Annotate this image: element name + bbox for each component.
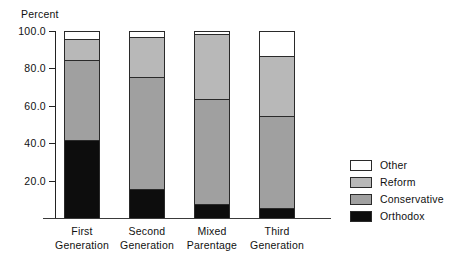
y-tick-label-wrap: 80.0 <box>0 62 46 74</box>
bar-segment-conservative <box>260 117 294 209</box>
bar-segment-conservative <box>195 100 229 205</box>
bar-segment-other <box>195 31 229 35</box>
legend-item-reform[interactable]: Reform <box>350 174 444 190</box>
legend-item-orthodox[interactable]: Orthodox <box>350 208 444 224</box>
x-axis-line <box>43 218 331 219</box>
legend-label: Reform <box>380 176 416 188</box>
y-tick-label: 80.0 <box>24 62 46 74</box>
legend-item-other[interactable]: Other <box>350 157 444 173</box>
legend-swatch-icon <box>350 160 372 171</box>
bar-segment-orthodox <box>65 141 99 218</box>
y-axis-line <box>55 31 56 219</box>
bar-segment-orthodox <box>195 205 229 218</box>
bar-segment-orthodox <box>130 190 164 218</box>
y-tick-mark <box>49 143 56 144</box>
category-label: ThirdGeneration <box>229 224 325 252</box>
bar-segment-conservative <box>130 78 164 190</box>
y-tick-mark <box>49 106 56 107</box>
legend-label: Orthodox <box>380 210 425 222</box>
bar-segment-other <box>65 31 99 40</box>
bar-segment-other <box>130 31 164 38</box>
y-tick-label-wrap: 100.0 <box>0 25 46 37</box>
category-label-line: Generation <box>229 238 325 252</box>
legend-item-conservative[interactable]: Conservative <box>350 191 444 207</box>
bar-segment-reform <box>130 38 164 77</box>
bar-third-generation <box>259 31 295 218</box>
bar-second-generation <box>129 31 165 218</box>
y-tick-label: 100.0 <box>18 25 46 37</box>
y-tick-mark <box>49 31 56 32</box>
legend-label: Conservative <box>380 193 444 205</box>
legend-swatch-icon <box>350 194 372 205</box>
y-tick-label: 20.0 <box>24 175 46 187</box>
y-tick-label: 60.0 <box>24 100 46 112</box>
bar-first-generation <box>64 31 100 218</box>
bar-segment-reform <box>65 40 99 61</box>
category-label-line: Third <box>229 224 325 238</box>
legend-swatch-icon <box>350 177 372 188</box>
y-tick-label: 40.0 <box>24 137 46 149</box>
bar-segment-reform <box>260 57 294 117</box>
bar-mixed-parentage <box>194 31 230 218</box>
y-tick-label-wrap: 60.0 <box>0 100 46 112</box>
y-tick-mark <box>49 68 56 69</box>
bar-segment-other <box>260 31 294 57</box>
y-tick-label-wrap: 40.0 <box>0 137 46 149</box>
bar-segment-orthodox <box>260 209 294 218</box>
bar-segment-reform <box>195 35 229 100</box>
bar-segment-conservative <box>65 61 99 141</box>
legend-swatch-icon <box>350 211 372 222</box>
chart-legend: OtherReformConservativeOrthodox <box>350 157 444 225</box>
legend-label: Other <box>380 159 407 171</box>
y-axis-title: Percent <box>21 8 59 20</box>
y-tick-label-wrap: 20.0 <box>0 175 46 187</box>
stacked-bar-chart: Percent 100.080.060.040.020.0 FirstGener… <box>0 0 451 266</box>
y-tick-mark <box>49 181 56 182</box>
